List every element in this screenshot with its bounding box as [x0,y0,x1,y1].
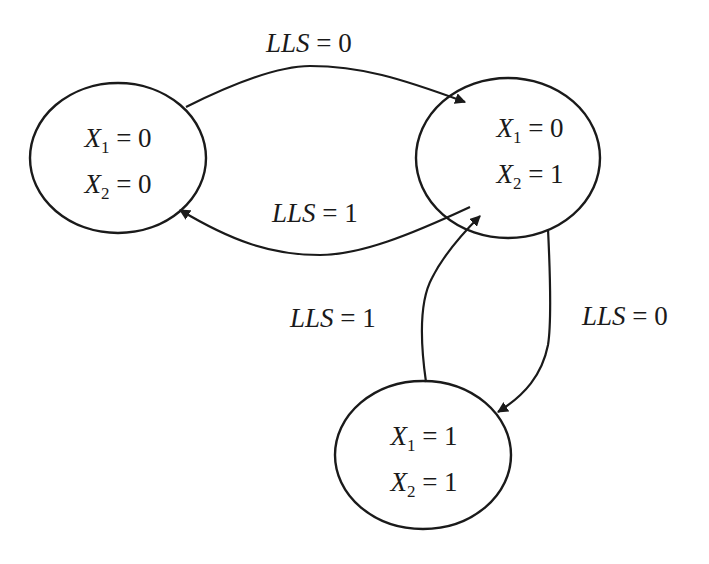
transition-label-s00-s01: LLS = 0 [266,30,352,57]
transition-label-s11-s01: LLS = 1 [290,305,376,332]
state-label-s01: X1 = 0 X2 = 1 [480,110,580,202]
state-line-x2: X2 = 1 [374,464,474,510]
state-line-x2: X2 = 1 [480,156,580,202]
transition-s00-s01-arrow [186,66,465,107]
state-label-s00: X1 = 0 X2 = 0 [68,120,168,212]
transition-label-s01-s00: LLS = 1 [272,200,358,227]
state-line-x1: X1 = 0 [68,120,168,166]
state-diagram-canvas [0,0,709,564]
transition-s01-s11-arrow [498,229,550,412]
state-line-x1: X1 = 1 [374,418,474,464]
state-line-x2: X2 = 0 [68,166,168,212]
state-line-x1: X1 = 0 [480,110,580,156]
transition-label-s01-s11: LLS = 0 [582,303,668,330]
transition-s11-s01-arrow [422,216,480,382]
state-label-s11: X1 = 1 X2 = 1 [374,418,474,510]
